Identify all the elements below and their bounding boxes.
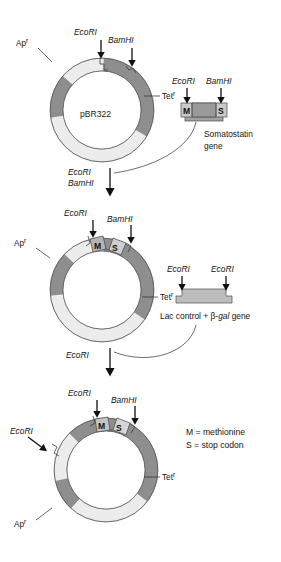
stage2-seg-m: M: [94, 241, 101, 251]
stage3-ecori-left-label: EcoRI: [10, 426, 33, 436]
lac-fragment-caption: Lac control + β-gal gene: [160, 311, 251, 321]
somatostatin-caption-line1: Somatostatin: [204, 129, 253, 139]
lac-fragment: [176, 276, 232, 303]
fragment1-bamhi-label: BamHI: [206, 76, 232, 86]
stage3-plasmid: [28, 400, 170, 522]
stage2-inner-circle: [63, 251, 141, 329]
fragment1-seg-m: M: [183, 106, 190, 116]
transition1-line2: BamHI: [68, 178, 94, 188]
transition1-line1: EcoRI: [68, 167, 91, 177]
stage2-plasmid: [36, 220, 167, 342]
stage2-ecori-label: EcoRI: [64, 208, 87, 218]
fragment1-ecori-label: EcoRI: [172, 76, 195, 86]
lac-ecori-left-label: EcoRI: [167, 264, 190, 274]
stage1-ap-leader: [38, 48, 52, 62]
stage1-ecori-label: EcoRI: [74, 27, 97, 37]
stage2-ap-label: Apr: [14, 237, 27, 248]
transition2-line1: EcoRI: [66, 350, 89, 360]
stage1-tet-label: Tetr: [162, 90, 176, 101]
figure-root: EcoRI BamHI Apr Tetr pBR322 EcoRI BamHI …: [0, 0, 281, 562]
stage3-ap-label: Apr: [14, 518, 27, 529]
stage1-plasmid: [38, 40, 166, 162]
legend-line-methionine: M = methionine: [186, 427, 245, 437]
stage1-ring-segments: [47, 52, 166, 162]
stage1-ap-label: Apr: [16, 37, 29, 48]
stage2-ap-leader: [36, 248, 50, 258]
stage3-ecori-left-arrow: [28, 437, 44, 449]
stage1-plasmid-name: pBR322: [80, 109, 111, 119]
stage3-seg-m: M: [98, 421, 105, 431]
stage3-inner-circle: [67, 431, 145, 509]
stage3-ecori-top-label: EcoRI: [68, 388, 91, 398]
stage1-bamhi-label: BamHI: [108, 35, 134, 45]
stage3-seg-s: S: [116, 423, 122, 433]
stage3-bamhi-label: BamHI: [111, 395, 137, 405]
somatostatin-caption-line2: gene: [204, 141, 223, 151]
fragment1-seg-s: S: [218, 106, 224, 116]
lac-ecori-right-label: EcoRI: [211, 264, 234, 274]
somatostatin-fragment: [181, 88, 227, 121]
stage3-tet-label: Tetr: [162, 471, 176, 482]
stage3-ap-leader: [36, 508, 52, 520]
stage2-ring-segments: [47, 232, 166, 342]
stage2-bamhi-label: BamHI: [107, 214, 133, 224]
lac-fragment-bar: [176, 289, 232, 303]
legend-line-stop-codon: S = stop codon: [186, 440, 244, 450]
stage2-tet-label: Tetr: [160, 291, 174, 302]
diagram-canvas: EcoRI BamHI Apr Tetr pBR322 EcoRI BamHI …: [0, 0, 281, 562]
stage2-seg-s: S: [112, 243, 118, 253]
somatostatin-coding-region: [192, 103, 216, 117]
